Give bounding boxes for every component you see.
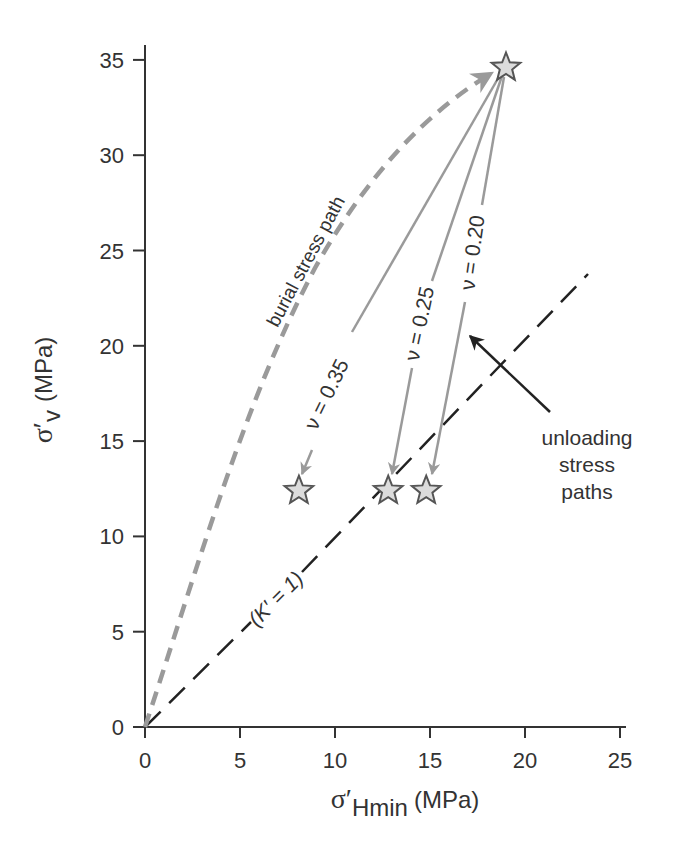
- y-tick-label: 25: [100, 239, 124, 264]
- y-axis-symbol: σ′: [27, 422, 58, 443]
- star-marker-icon: [492, 53, 521, 80]
- unloading-path-nu-025: ν = 0.25: [392, 76, 502, 474]
- y-tick-label: 20: [100, 334, 124, 359]
- y-axis-title: σ′v(MPa): [27, 337, 65, 444]
- unloading-annotation: unloading stress paths: [470, 336, 633, 503]
- svg-text:σ′v(MPa): σ′v(MPa): [27, 337, 65, 444]
- x-axis-unit: (MPa): [414, 786, 479, 813]
- x-tick-label: 0: [139, 748, 151, 773]
- x-ticks: 0510152025: [139, 727, 632, 773]
- nu-035-label: ν = 0.35: [299, 355, 353, 433]
- star-marker-icon: [374, 476, 403, 503]
- x-tick-label: 25: [608, 748, 632, 773]
- y-tick-label: 30: [100, 143, 124, 168]
- x-tick-label: 5: [234, 748, 246, 773]
- y-tick-label: 15: [100, 429, 124, 454]
- k-one-line: (K′ = 1): [145, 274, 588, 727]
- y-tick-label: 10: [100, 524, 124, 549]
- x-tick-label: 15: [418, 748, 442, 773]
- unloading-label-line1: unloading: [541, 426, 632, 449]
- x-tick-label: 10: [323, 748, 347, 773]
- x-tick-label: 20: [513, 748, 537, 773]
- star-marker-icon: [412, 476, 441, 503]
- y-axis-subscript: v: [38, 410, 65, 422]
- burial-stress-path-label: burial stress path: [262, 192, 348, 330]
- y-ticks: 05101520253035: [100, 48, 145, 740]
- unloading-label-line3: paths: [561, 480, 612, 503]
- unloading-path-nu-020: ν = 0.20: [432, 77, 504, 474]
- star-markers: [285, 53, 521, 503]
- x-axis-title: σ′Hmin(MPa): [331, 783, 480, 821]
- x-axis-symbol: σ′: [331, 783, 352, 814]
- x-axis: 0510152025: [135, 727, 632, 773]
- y-tick-label: 5: [112, 620, 124, 645]
- unloading-label-line2: stress: [559, 453, 615, 476]
- y-tick-label: 35: [100, 48, 124, 73]
- nu-025-label: ν = 0.25: [400, 284, 438, 362]
- star-marker-icon: [285, 476, 314, 503]
- x-axis-subscript: Hmin: [352, 794, 408, 821]
- y-tick-label: 0: [112, 715, 124, 740]
- y-axis: 05101520253035: [100, 45, 145, 740]
- svg-text:σ′Hmin(MPa): σ′Hmin(MPa): [331, 783, 480, 821]
- y-axis-unit: (MPa): [30, 337, 57, 402]
- nu-020-label: ν = 0.20: [455, 214, 488, 292]
- k-one-label: (K′ = 1): [244, 567, 308, 631]
- stress-path-chart: 05101520253035 0510152025 σ′v(MPa) σ′Hmi…: [0, 0, 692, 862]
